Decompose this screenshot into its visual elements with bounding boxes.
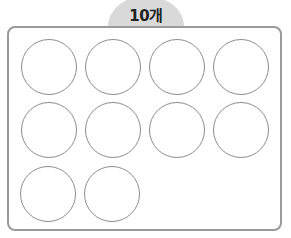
- circle-7: [149, 102, 205, 158]
- circle-1: [21, 39, 77, 95]
- circle-10: [84, 166, 140, 222]
- circle-9: [20, 166, 76, 222]
- circle-2: [85, 39, 141, 95]
- count-label: 10개: [108, 4, 184, 25]
- circle-5: [21, 102, 77, 158]
- circle-3: [149, 39, 205, 95]
- circle-8: [213, 102, 269, 158]
- circle-4: [213, 39, 269, 95]
- circle-6: [85, 102, 141, 158]
